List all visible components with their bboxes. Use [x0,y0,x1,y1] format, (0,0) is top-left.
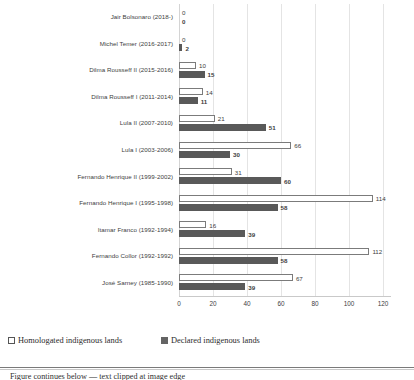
bar-value-label: 0 [182,9,185,16]
bar-declared [179,230,245,237]
bar-value-label: 39 [248,284,255,291]
category-label: Dilma Rousseff II (2015-2016) [0,66,173,74]
category-label: Dilma Rousseff I (2011-2014) [0,93,173,101]
category-label: Itamar Franco (1992-1994) [0,226,173,234]
bar-homologated [179,221,206,228]
bar-value-label: 30 [233,151,240,158]
bar-homologated [179,142,291,149]
footer-divider [0,367,414,368]
x-tick-label-100: 100 [344,299,355,308]
bar-homologated [179,62,196,69]
x-tick-label-0: 0 [177,299,181,308]
bar-declared [179,204,278,211]
category-label: Jair Bolsonaro (2018-) [0,13,173,21]
category-label: Lula II (2007-2010) [0,119,173,127]
bar-value-label: 0 [182,18,185,25]
x-tick-label-80: 80 [311,299,318,308]
gridline-120 [383,4,384,296]
category-label: José Sarney (1985-1990) [0,279,173,287]
clipped-caption: Figure continues below — text clipped at… [10,372,408,380]
legend-label-declared: Declared indigenous lands [171,336,260,345]
legend-swatch-homologated-icon [8,337,15,344]
bar-value-label: 58 [281,257,288,264]
bar-declared [179,151,230,158]
bar-chart-figure: Jair Bolsonaro (2018-)Michel Temer (2016… [0,0,414,380]
bar-declared [179,257,278,264]
footer-divider-secondary [0,369,414,370]
bar-value-label: 60 [284,178,291,185]
x-tick-label-20: 20 [209,299,216,308]
bar-value-label: 58 [281,204,288,211]
plot-wrapper: Jair Bolsonaro (2018-)Michel Temer (2016… [0,4,414,304]
category-axis-labels: Jair Bolsonaro (2018-)Michel Temer (2016… [0,4,176,296]
plot-area: 0002101514112151663031601145816391125867… [179,4,391,296]
category-label: Michel Temer (2016-2017) [0,40,173,48]
legend-swatch-declared-icon [161,337,168,344]
bar-value-label: 51 [269,124,276,131]
bar-value-label: 16 [209,222,216,229]
bar-homologated [179,115,215,122]
bar-value-label: 11 [201,98,208,105]
chart-legend: Homologated indigenous lands Declared in… [0,336,414,354]
bar-declared [179,177,281,184]
legend-label-homologated: Homologated indigenous lands [18,336,122,345]
bar-value-label: 0 [182,36,185,43]
x-tick-label-40: 40 [243,299,250,308]
bar-value-label: 39 [248,231,255,238]
x-axis-tick-labels: 020406080100120 [179,299,391,311]
x-tick-label-120: 120 [378,299,389,308]
bar-value-label: 114 [376,195,386,202]
category-label: Fernando Henrique II (1999-2002) [0,173,173,181]
bar-homologated [179,248,369,255]
bar-value-label: 14 [206,89,213,96]
category-label: Lula I (2003-2006) [0,146,173,154]
bar-declared [179,44,182,51]
legend-item-declared: Declared indigenous lands [161,336,260,345]
category-label: Fernando Henrique I (1995-1998) [0,199,173,207]
bar-value-label: 66 [294,142,301,149]
bar-value-label: 31 [235,169,242,176]
bar-declared [179,283,245,290]
bar-value-label: 2 [185,45,188,52]
bar-declared [179,97,198,104]
bar-value-label: 10 [199,62,206,69]
bar-declared [179,71,205,78]
legend-item-homologated: Homologated indigenous lands [8,336,122,345]
category-label: Fernando Collor (1992-1992) [0,252,173,260]
x-axis-line [179,296,391,297]
bar-value-label: 21 [218,115,225,122]
x-tick-label-60: 60 [277,299,284,308]
bar-homologated [179,168,232,175]
bar-value-label: 112 [372,248,382,255]
bar-homologated [179,274,293,281]
bar-value-label: 15 [208,71,215,78]
bar-value-label: 67 [296,275,303,282]
bar-homologated [179,195,373,202]
bar-declared [179,124,266,131]
bar-homologated [179,88,203,95]
